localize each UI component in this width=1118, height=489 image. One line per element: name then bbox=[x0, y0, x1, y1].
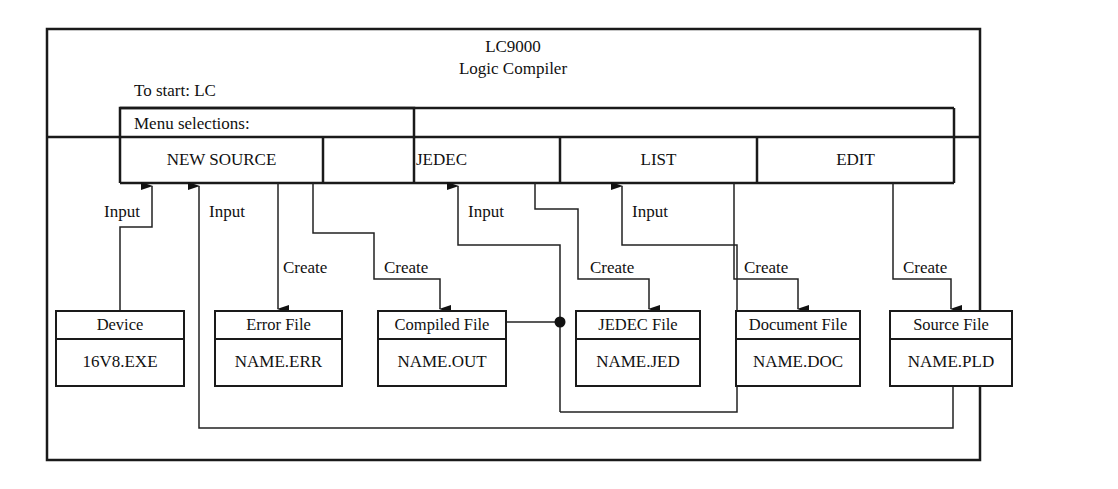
file-name: NAME.DOC bbox=[737, 340, 859, 384]
menu-item-new-source[interactable]: NEW SOURCE bbox=[120, 137, 323, 183]
file-name: NAME.ERR bbox=[216, 340, 341, 384]
file-title: Device bbox=[57, 312, 183, 340]
file-name: NAME.PLD bbox=[891, 340, 1011, 384]
menu-label: Menu selections: bbox=[134, 115, 250, 132]
menu-item-jedec[interactable]: JEDEC bbox=[323, 137, 560, 183]
label-input-source: Input bbox=[209, 203, 245, 220]
label-create-source: Create bbox=[903, 259, 947, 276]
label-input-device: Input bbox=[104, 203, 140, 220]
file-title: Error File bbox=[216, 312, 341, 340]
label-create-jedec: Create bbox=[590, 259, 634, 276]
app-subtitle: Logic Compiler bbox=[459, 60, 567, 77]
label-input-jedec: Input bbox=[468, 203, 504, 220]
file-title: Source File bbox=[891, 312, 1011, 340]
junction-dot bbox=[555, 317, 566, 328]
file-box-source[interactable]: Source File NAME.PLD bbox=[889, 310, 1013, 387]
file-name: NAME.JED bbox=[577, 340, 699, 384]
menu-item-list[interactable]: LIST bbox=[560, 137, 757, 183]
label-create-error: Create bbox=[283, 259, 327, 276]
file-name: 16V8.EXE bbox=[57, 340, 183, 384]
file-title: Compiled File bbox=[379, 312, 505, 340]
start-instruction: To start: LC bbox=[134, 82, 216, 99]
file-box-device[interactable]: Device 16V8.EXE bbox=[55, 310, 185, 387]
file-box-error[interactable]: Error File NAME.ERR bbox=[214, 310, 343, 387]
file-box-document[interactable]: Document File NAME.DOC bbox=[735, 310, 861, 387]
file-name: NAME.OUT bbox=[379, 340, 505, 384]
app-title: LC9000 bbox=[485, 38, 541, 55]
label-create-doc: Create bbox=[744, 259, 788, 276]
file-box-jedec[interactable]: JEDEC File NAME.JED bbox=[575, 310, 701, 387]
file-title: Document File bbox=[737, 312, 859, 340]
menu-item-edit[interactable]: EDIT bbox=[757, 137, 954, 183]
label-input-list: Input bbox=[632, 203, 668, 220]
file-title: JEDEC File bbox=[577, 312, 699, 340]
label-create-compiled: Create bbox=[384, 259, 428, 276]
file-box-compiled[interactable]: Compiled File NAME.OUT bbox=[377, 310, 507, 387]
